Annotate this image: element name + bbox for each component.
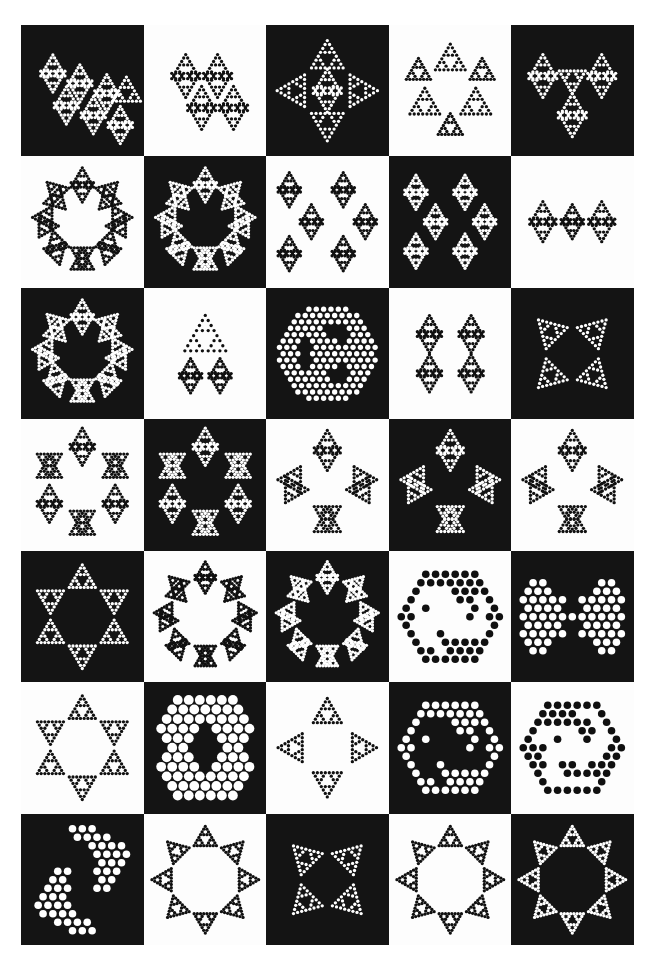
pattern-cell-3	[266, 25, 389, 156]
pattern-grid	[21, 25, 634, 945]
pattern-art-sierpinski-butterfly-x	[511, 288, 634, 419]
pattern-cell-35	[511, 814, 634, 945]
pattern-cell-2	[144, 25, 267, 156]
pattern-cell-11	[21, 288, 144, 419]
pattern-cell-32	[144, 814, 267, 945]
pattern-cell-5	[511, 25, 634, 156]
pattern-art-sierpinski-hexagon-disc	[266, 288, 389, 419]
pattern-cell-31	[21, 814, 144, 945]
pattern-art-sierpinski-double-wing-band	[511, 814, 634, 945]
pattern-art-coarse-pinwheel-ring	[389, 682, 512, 813]
pattern-cell-12	[144, 288, 267, 419]
pattern-cell-15	[511, 288, 634, 419]
pattern-cell-7	[144, 156, 267, 287]
pattern-art-sierpinski-rhombus	[144, 25, 267, 156]
pattern-cell-4	[389, 25, 512, 156]
pattern-art-sierpinski-quad-butterfly	[266, 814, 389, 945]
pattern-art-sierpinski-octagonal-ring	[21, 156, 144, 287]
pattern-cell-26	[21, 682, 144, 813]
pattern-cell-9	[389, 156, 512, 287]
pattern-cell-30	[511, 682, 634, 813]
pattern-cell-28	[266, 682, 389, 813]
pattern-art-sierpinski-triskelion-cross	[266, 682, 389, 813]
pattern-art-coarse-double-hourglass	[144, 682, 267, 813]
pattern-art-sierpinski-bowtie-chain	[511, 156, 634, 287]
pattern-art-sierpinski-eight-petal-flower-inverted	[266, 551, 389, 682]
pattern-cell-10	[511, 156, 634, 287]
pattern-cell-8	[266, 156, 389, 287]
pattern-art-sierpinski-double-s-wave	[266, 156, 389, 287]
pattern-art-coarse-butterfly	[511, 551, 634, 682]
pattern-art-sierpinski-pinwheel-cross	[266, 25, 389, 156]
pattern-art-sierpinski-scalloped-ring	[144, 156, 267, 287]
pattern-cell-34	[389, 814, 512, 945]
pattern-art-sierpinski-six-point-star	[21, 682, 144, 813]
pattern-cell-13	[266, 288, 389, 419]
pattern-cell-27	[144, 682, 267, 813]
pattern-art-sierpinski-double-rhombus-pair	[389, 288, 512, 419]
pattern-cell-14	[389, 288, 512, 419]
pattern-cell-23	[266, 551, 389, 682]
pattern-cell-17	[144, 419, 267, 550]
pattern-art-sierpinski-trefoil-crown	[389, 25, 512, 156]
pattern-art-sierpinski-square-lobe-ring	[389, 419, 512, 550]
pattern-cell-33	[266, 814, 389, 945]
pattern-art-sierpinski-pinwheel-four-blade	[266, 419, 389, 550]
pattern-art-coarse-four-blade-pinwheel	[21, 814, 144, 945]
pattern-cell-16	[21, 419, 144, 550]
pattern-cell-18	[266, 419, 389, 550]
pattern-cell-25	[511, 551, 634, 682]
pattern-cell-24	[389, 551, 512, 682]
pattern-cell-21	[21, 551, 144, 682]
pattern-art-sierpinski-tri-wing-fan	[511, 25, 634, 156]
pattern-art-coarse-pinwheel-annulus	[389, 551, 512, 682]
pattern-art-sierpinski-hex-lobe-ring	[144, 419, 267, 550]
pattern-art-sierpinski-rhombus-slab	[21, 25, 144, 156]
pattern-art-sierpinski-twin-zigzag	[389, 156, 512, 287]
pattern-cell-22	[144, 551, 267, 682]
pattern-art-sierpinski-winged-oval	[389, 814, 512, 945]
pattern-art-sierpinski-annulus-wreath	[21, 288, 144, 419]
pattern-cell-19	[389, 419, 512, 550]
pattern-art-sierpinski-star-outline-ring	[21, 551, 144, 682]
pattern-art-coarse-spiral-ring	[511, 682, 634, 813]
page-root	[0, 0, 654, 969]
pattern-art-sierpinski-eight-petal-flower	[144, 551, 267, 682]
pattern-art-sierpinski-banner-shield	[144, 288, 267, 419]
pattern-cell-29	[389, 682, 512, 813]
pattern-art-sierpinski-eight-wing-ring	[21, 419, 144, 550]
pattern-cell-1	[21, 25, 144, 156]
pattern-cell-20	[511, 419, 634, 550]
pattern-art-sierpinski-diamond-lobe-ring	[511, 419, 634, 550]
pattern-cell-6	[21, 156, 144, 287]
pattern-art-sierpinski-butterfly-wreath	[144, 814, 267, 945]
